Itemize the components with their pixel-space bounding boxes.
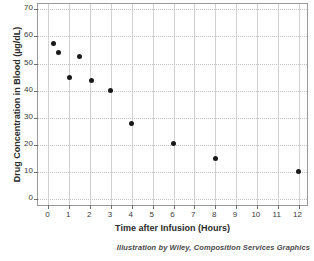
y-tick-mark [34, 199, 38, 200]
y-tick-mark [34, 9, 38, 10]
y-tick-label: 30 [24, 113, 33, 121]
gridline-vertical [299, 4, 300, 205]
gridline-horizontal [38, 91, 307, 92]
gridline-horizontal [38, 64, 307, 65]
gridline-horizontal [38, 36, 307, 37]
x-tick-label: 10 [251, 211, 260, 219]
y-tick-label: 40 [24, 86, 33, 94]
x-tick-label: 8 [212, 211, 216, 219]
drug-concentration-scatter-figure: 010203040506070 0123456789101112 Time af… [0, 0, 314, 261]
x-tick-mark [257, 205, 258, 209]
y-tick-label: 60 [24, 31, 33, 39]
gridline-vertical [257, 4, 258, 205]
x-tick-mark [90, 205, 91, 209]
data-point [129, 121, 134, 126]
y-tick-label: 50 [24, 59, 33, 67]
gridline-horizontal [38, 172, 307, 173]
y-tick-mark [34, 145, 38, 146]
x-tick-label: 12 [293, 211, 302, 219]
data-point [108, 88, 113, 93]
gridline-horizontal [38, 199, 307, 200]
data-point [89, 78, 94, 83]
gridline-vertical [153, 4, 154, 205]
gridline-horizontal [38, 9, 307, 10]
x-tick-label: 6 [170, 211, 174, 219]
y-tick-label: 10 [24, 167, 33, 175]
x-axis-title: Time after Infusion (Hours) [37, 224, 308, 233]
x-tick-mark [48, 205, 49, 209]
y-axis-title: Drug Concentration in Blood (µg/dL) [13, 5, 22, 205]
x-tick-label: 5 [149, 211, 153, 219]
x-tick-mark [111, 205, 112, 209]
y-tick-mark [34, 172, 38, 173]
x-tick-mark [132, 205, 133, 209]
gridline-vertical [236, 4, 237, 205]
y-tick-mark [34, 64, 38, 65]
x-axis-tick-labels: 0123456789101112 [37, 211, 308, 222]
gridline-vertical [132, 4, 133, 205]
x-tick-mark [299, 205, 300, 209]
data-point [171, 141, 176, 146]
data-point [213, 156, 218, 161]
data-point [296, 169, 301, 174]
x-tick-mark [215, 205, 216, 209]
x-tick-label: 9 [233, 211, 237, 219]
y-tick-label: 20 [24, 140, 33, 148]
x-tick-label: 11 [273, 211, 281, 219]
x-tick-label: 7 [191, 211, 195, 219]
gridline-vertical [69, 4, 70, 205]
y-tick-mark [34, 118, 38, 119]
y-tick-label: 0 [29, 194, 33, 202]
illustration-credit: Illustration by Wiley, Composition Servi… [117, 243, 310, 252]
x-tick-label: 2 [87, 211, 91, 219]
x-tick-mark [236, 205, 237, 209]
x-tick-mark [153, 205, 154, 209]
x-tick-mark [174, 205, 175, 209]
x-tick-mark [278, 205, 279, 209]
gridline-vertical [90, 4, 91, 205]
gridline-vertical [278, 4, 279, 205]
x-tick-mark [194, 205, 195, 209]
gridline-vertical [215, 4, 216, 205]
y-tick-mark [34, 36, 38, 37]
x-tick-label: 1 [66, 211, 70, 219]
x-tick-label: 4 [129, 211, 133, 219]
x-tick-label: 0 [45, 211, 49, 219]
x-tick-label: 3 [108, 211, 112, 219]
data-point [56, 50, 61, 55]
y-tick-mark [34, 91, 38, 92]
plot-area [37, 3, 308, 206]
gridline-vertical [48, 4, 49, 205]
gridline-vertical [194, 4, 195, 205]
gridline-vertical [174, 4, 175, 205]
data-point [77, 54, 82, 59]
data-point [51, 41, 56, 46]
x-tick-mark [69, 205, 70, 209]
gridline-vertical [111, 4, 112, 205]
gridline-horizontal [38, 118, 307, 119]
data-point [67, 75, 72, 80]
y-tick-label: 70 [24, 4, 33, 12]
